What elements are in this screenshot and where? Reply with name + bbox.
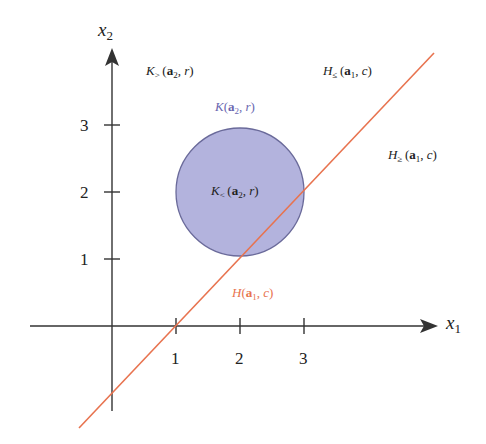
y-tick-label-2: 2	[80, 184, 89, 201]
label-param: c	[263, 285, 269, 300]
label-sym: H	[232, 285, 241, 300]
label-k-circle: K(a2, r)	[215, 100, 255, 116]
y-axis-label-sub: 2	[106, 28, 113, 43]
diagram-canvas	[0, 0, 486, 444]
label-param: c	[362, 63, 368, 78]
y-tick-label-3: 3	[80, 117, 89, 134]
label-rel: >	[155, 70, 160, 80]
label-h-leq: H≤ (a1, c)	[323, 64, 372, 80]
label-k-less: K< (a2, r)	[211, 184, 259, 200]
label-vec-sub: 2	[173, 70, 178, 80]
x-tick-label-3: 3	[299, 350, 308, 367]
label-param: r	[184, 63, 189, 78]
hyperplane-line	[79, 53, 434, 428]
label-vec-sub: 1	[252, 292, 257, 302]
label-vec-sub: 2	[238, 190, 243, 200]
label-sym: H	[323, 63, 332, 78]
label-rel: ≤	[332, 70, 337, 80]
y-axis-label: x2	[98, 20, 113, 42]
label-h-line: H(a1, c)	[232, 286, 273, 302]
label-k-greater: K> (a2, r)	[146, 64, 194, 80]
label-vec-sub: 2	[235, 106, 240, 116]
label-sym: K	[146, 63, 155, 78]
label-sym: K	[215, 99, 224, 114]
label-rel: <	[220, 190, 225, 200]
y-tick-label-1: 1	[80, 251, 89, 268]
label-sym: H	[388, 147, 397, 162]
label-param: r	[246, 99, 251, 114]
label-param: c	[427, 147, 433, 162]
label-param: r	[249, 183, 254, 198]
label-vec-sub: 1	[416, 154, 421, 164]
x-axis-label: x1	[446, 313, 461, 335]
label-h-geq: H≥ (a1, c)	[388, 148, 437, 164]
x-tick-label-2: 2	[235, 350, 244, 367]
x-axis-label-sub: 1	[454, 321, 461, 336]
label-sym: K	[211, 183, 220, 198]
label-rel: ≥	[397, 154, 402, 164]
label-vec-sub: 1	[351, 70, 356, 80]
x-tick-label-1: 1	[171, 350, 180, 367]
